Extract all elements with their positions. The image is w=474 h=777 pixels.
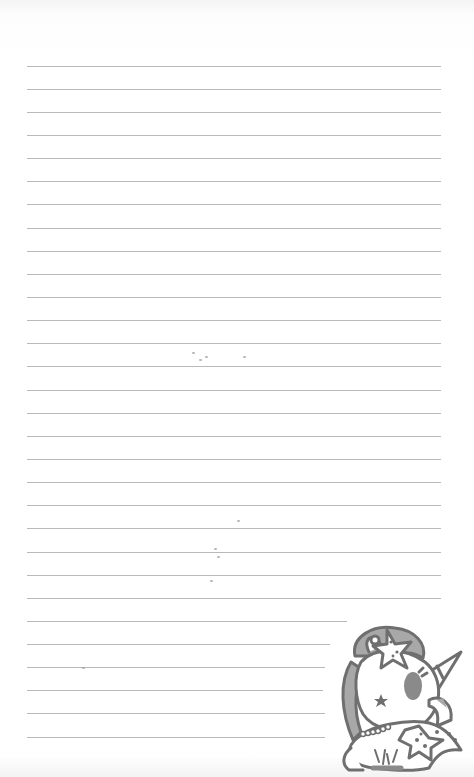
ruled-line bbox=[27, 528, 441, 529]
paper-speck bbox=[192, 352, 195, 354]
unicorn-illustration bbox=[333, 622, 465, 774]
ruled-line bbox=[27, 482, 441, 483]
paper-speck bbox=[214, 548, 217, 550]
ruled-line bbox=[27, 158, 441, 159]
ruled-line bbox=[27, 552, 441, 553]
ruled-line bbox=[27, 135, 441, 136]
ruled-line bbox=[27, 66, 441, 67]
paper-speck bbox=[237, 520, 240, 522]
ruled-line bbox=[27, 320, 441, 321]
paper-speck bbox=[199, 359, 202, 361]
ruled-line bbox=[27, 274, 441, 275]
ruled-line bbox=[27, 112, 441, 113]
ruled-line bbox=[27, 621, 347, 622]
ruled-line bbox=[27, 181, 441, 182]
ruled-line bbox=[27, 459, 441, 460]
ruled-line bbox=[27, 366, 441, 367]
ruled-line bbox=[27, 737, 325, 738]
ruled-line bbox=[27, 667, 325, 668]
notebook-page bbox=[0, 0, 474, 777]
ruled-line bbox=[27, 575, 441, 576]
paper-speck bbox=[205, 356, 208, 358]
paper-speck bbox=[82, 667, 85, 669]
ruled-line bbox=[27, 228, 441, 229]
ruled-line bbox=[27, 297, 441, 298]
ruled-line bbox=[27, 644, 330, 645]
ruled-line bbox=[27, 436, 441, 437]
ruled-line bbox=[27, 690, 323, 691]
ruled-line bbox=[27, 713, 325, 714]
ruled-line bbox=[27, 89, 441, 90]
paper-speck bbox=[243, 356, 246, 358]
ruled-line bbox=[27, 505, 441, 506]
ruled-line bbox=[27, 390, 441, 391]
paper-speck bbox=[217, 556, 220, 558]
ruled-line bbox=[27, 204, 441, 205]
ruled-line bbox=[27, 251, 441, 252]
ruled-line bbox=[27, 598, 441, 599]
paper-speck bbox=[210, 580, 213, 582]
ruled-line bbox=[27, 413, 441, 414]
ruled-line bbox=[27, 343, 441, 344]
